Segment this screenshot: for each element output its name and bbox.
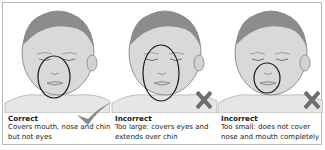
caption-too-large: Incorrect Too large: covers eyes and ext… [115, 114, 219, 142]
caption-correct: Correct Covers mouth, nose and chin but … [8, 114, 112, 142]
caption-description: Covers mouth, nose and chin but not eyes [8, 123, 112, 142]
caption-title: Correct [8, 114, 112, 123]
x-icon [196, 91, 212, 109]
figure-frame: Correct Covers mouth, nose and chin but … [2, 2, 322, 145]
caption-description: Too large: covers eyes and extends over … [115, 123, 219, 142]
caption-description: Too small: does not cover nose and mouth… [221, 123, 325, 142]
caption-too-small: Incorrect Too small: does not cover nose… [221, 114, 325, 142]
panel-too-small: Incorrect Too small: does not cover nose… [216, 3, 323, 146]
panel-correct: Correct Covers mouth, nose and chin but … [3, 3, 110, 146]
panel-too-large: Incorrect Too large: covers eyes and ext… [110, 3, 217, 146]
caption-title: Incorrect [221, 114, 325, 123]
infant-face-illustration [3, 3, 110, 113]
caption-title: Incorrect [115, 114, 219, 123]
x-icon [304, 91, 320, 109]
